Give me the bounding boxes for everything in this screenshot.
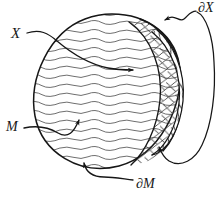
label-boundary-x: ∂X <box>198 1 213 15</box>
diagram-canvas <box>0 0 223 197</box>
label-boundary-m: ∂M <box>136 177 155 191</box>
pointer-boundary-X-top <box>165 11 196 20</box>
manifold-diagram <box>0 0 223 197</box>
label-x: X <box>11 26 20 41</box>
label-m: M <box>6 120 18 134</box>
